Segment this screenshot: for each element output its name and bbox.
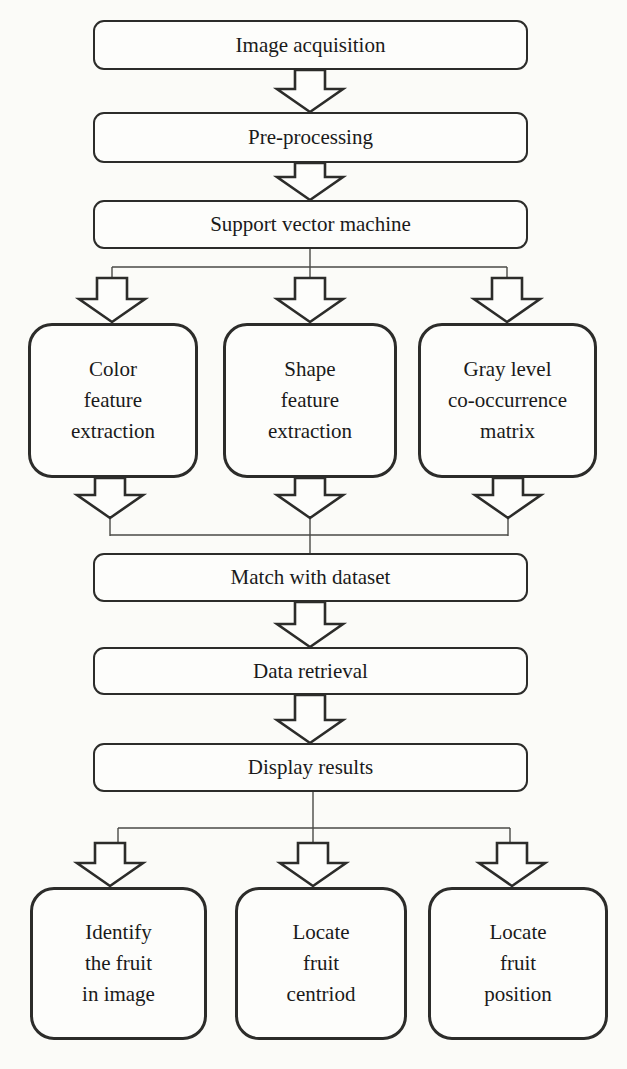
node-label-line: centriod — [287, 979, 356, 1010]
down-arrow-icon — [280, 843, 346, 886]
node-label-line: the fruit — [85, 948, 152, 979]
node-match-with-dataset: Match with dataset — [93, 553, 528, 602]
node-label-line: Shape — [284, 354, 335, 385]
node-label: Support vector machine — [210, 212, 411, 237]
node-data-retrieval: Data retrieval — [93, 647, 528, 695]
node-label: Pre-processing — [248, 125, 373, 150]
node-label: Match with dataset — [231, 565, 391, 590]
node-color-feature-extraction: Color feature extraction — [28, 323, 198, 478]
down-arrow-icon — [277, 163, 343, 200]
node-label-line: extraction — [268, 416, 352, 447]
node-label-line: Identify — [85, 917, 151, 948]
node-label-line: Locate — [489, 917, 546, 948]
node-label-line: co-occurrence — [448, 385, 567, 416]
node-label: Data retrieval — [253, 659, 368, 684]
node-identify-fruit-in-image: Identify the fruit in image — [30, 887, 207, 1040]
node-label-line: in image — [82, 979, 155, 1010]
down-arrow-icon — [475, 478, 541, 518]
down-arrow-icon — [79, 278, 145, 322]
node-label-line: Color — [89, 354, 137, 385]
node-label-line: fruit — [500, 948, 536, 979]
node-shape-feature-extraction: Shape feature extraction — [223, 323, 397, 478]
node-label-line: position — [484, 979, 552, 1010]
node-gray-level-cooccurrence-matrix: Gray level co-occurrence matrix — [418, 323, 597, 478]
node-label-line: fruit — [303, 948, 339, 979]
down-arrow-icon — [77, 478, 143, 518]
node-label-line: matrix — [480, 416, 535, 447]
node-label-line: feature — [84, 385, 142, 416]
down-arrow-icon — [479, 843, 545, 886]
node-label-line: extraction — [71, 416, 155, 447]
node-locate-fruit-centroid: Locate fruit centriod — [235, 887, 407, 1040]
node-label: Display results — [248, 755, 373, 780]
down-arrow-icon — [277, 278, 343, 322]
node-pre-processing: Pre-processing — [93, 112, 528, 163]
down-arrow-icon — [277, 478, 343, 518]
node-support-vector-machine: Support vector machine — [93, 200, 528, 249]
node-display-results: Display results — [93, 743, 528, 792]
node-locate-fruit-position: Locate fruit position — [428, 887, 608, 1040]
down-arrow-icon — [277, 70, 343, 112]
flowchart-page: Image acquisition Pre-processing Support… — [0, 0, 627, 1069]
down-arrow-icon — [277, 602, 343, 647]
down-arrow-icon — [277, 695, 343, 743]
node-label-line: feature — [281, 385, 339, 416]
node-label-line: Gray level — [463, 354, 551, 385]
node-label-line: Locate — [292, 917, 349, 948]
node-label: Image acquisition — [236, 33, 386, 58]
node-image-acquisition: Image acquisition — [93, 20, 528, 70]
down-arrow-icon — [474, 278, 540, 322]
down-arrow-icon — [77, 843, 143, 886]
